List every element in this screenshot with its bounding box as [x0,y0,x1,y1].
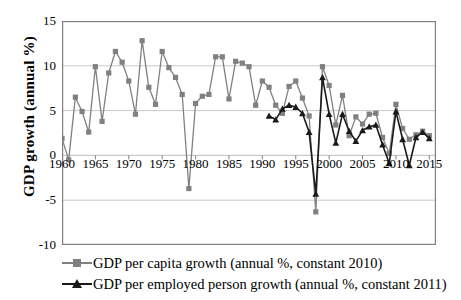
y-tick-label: 10 [16,59,56,72]
data-point-square [367,112,372,117]
x-tick-label: 2000 [316,157,342,171]
chart-figure: GDP growth (annual %) 151050-5-10 196019… [0,0,461,300]
data-point-square [293,78,298,83]
square-marker-icon [73,259,81,267]
data-point-square [173,75,178,80]
legend-label-gdp-per-employed: GDP per employed person growth (annual %… [93,276,447,292]
data-point-square [373,111,378,116]
data-point-square [206,92,211,97]
data-point-square [113,49,118,54]
data-point-square [180,92,185,97]
data-point-square [260,78,265,83]
legend-item-gdp-per-capita[interactable]: GDP per capita growth (annual %, constan… [62,252,461,273]
data-point-square [166,65,171,70]
x-tick-label: 1960 [49,157,75,171]
data-point-square [153,102,158,107]
data-point-square [240,61,245,66]
y-tick-label: 5 [16,104,56,117]
y-tick-label: -10 [16,238,56,251]
x-tick-label: 2015 [416,157,442,171]
data-point-square [286,84,291,89]
data-point-square [133,112,138,117]
data-point-square [213,54,218,59]
x-tick-label: 1995 [283,157,309,171]
data-point-square [193,101,198,106]
data-point-square [353,114,358,119]
data-point-square [200,94,205,99]
x-tick-label: 1975 [149,157,175,171]
y-axis-tick-labels: 151050-5-10 [12,21,56,245]
x-tick-label: 1980 [183,157,209,171]
legend-label-gdp-per-capita: GDP per capita growth (annual %, constan… [93,255,382,271]
data-point-square [360,121,365,126]
data-point-square [340,93,345,98]
data-point-square [407,137,412,142]
data-point-square [253,103,258,108]
x-axis-tick-labels: 1960196519701975198019851990199520002005… [62,157,436,173]
data-point-square [73,95,78,100]
plot-area [62,21,436,245]
x-tick-label: 2005 [350,157,376,171]
x-tick-label: 2010 [383,157,409,171]
data-point-square [327,83,332,88]
x-tick-label: 1970 [116,157,142,171]
data-point-square [220,54,225,59]
y-tick-label: 15 [16,14,56,27]
data-point-square [333,122,338,127]
data-point-square [99,119,104,124]
legend-item-gdp-per-employed[interactable]: GDP per employed person growth (annual %… [62,273,461,294]
data-point-square [160,49,165,54]
data-point-square [233,59,238,64]
x-tick-label: 1965 [82,157,108,171]
data-point-square [226,96,231,101]
data-point-square [79,109,84,114]
data-point-square [126,78,131,83]
data-point-square [300,95,305,100]
data-point-square [246,64,251,69]
data-point-square [320,64,325,69]
data-point-square [273,103,278,108]
data-point-square [307,113,312,118]
chart-legend: GDP per capita growth (annual %, constan… [62,252,461,294]
x-tick-label: 1990 [249,157,275,171]
data-point-square [186,186,191,191]
data-point-square [140,38,145,43]
data-point-square [86,130,91,135]
data-point-square [393,102,398,107]
triangle-marker-icon [72,279,82,288]
data-point-square [93,64,98,69]
data-point-square [313,209,318,214]
legend-key-triangle [62,277,92,291]
data-point-square [266,85,271,90]
chart-canvas [62,21,436,245]
y-tick-label: -5 [16,193,56,206]
data-point-square [62,136,65,141]
data-point-square [146,85,151,90]
data-point-square [120,60,125,65]
data-point-square [106,70,111,75]
x-tick-label: 1985 [216,157,242,171]
legend-key-square [62,256,92,270]
